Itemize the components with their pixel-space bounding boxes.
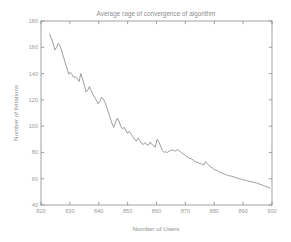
y-axis-label: Number of Iterations: [12, 85, 19, 141]
y-axis-tick-labels: 406080100120140160180: [29, 18, 38, 208]
x-tick-label: 840: [94, 208, 103, 214]
figure-canvas: Average rage of convergence of algorithm…: [0, 0, 291, 242]
x-tick-label: 880: [210, 208, 219, 214]
y-tick-label: 40: [32, 202, 38, 208]
y-tick-label: 100: [29, 123, 38, 129]
x-tick-label: 830: [65, 208, 74, 214]
y-tick-label: 160: [29, 44, 38, 50]
x-tick-label: 890: [238, 208, 247, 214]
x-tick-label: 900: [267, 208, 276, 214]
y-tick-label: 120: [29, 97, 38, 103]
y-tick-label: 80: [32, 149, 38, 155]
plot-area-border: [41, 21, 272, 205]
convergence-line-chart: Average rage of convergence of algorithm…: [0, 0, 291, 242]
series-line-iterations: [50, 34, 270, 188]
x-tick-label: 860: [152, 208, 161, 214]
chart-title: Average rage of convergence of algorithm: [97, 10, 216, 18]
y-tick-label: 180: [29, 18, 38, 24]
x-axis-tick-labels: 820830840850860870880890900: [36, 208, 276, 214]
x-tick-label: 850: [123, 208, 132, 214]
y-tick-label: 60: [32, 176, 38, 182]
y-axis-ticks: [41, 21, 272, 205]
y-tick-label: 140: [29, 71, 38, 77]
x-axis-ticks: [41, 21, 272, 205]
x-tick-label: 870: [181, 208, 190, 214]
x-axis-label: Number of Users: [133, 225, 180, 232]
x-tick-label: 820: [36, 208, 45, 214]
